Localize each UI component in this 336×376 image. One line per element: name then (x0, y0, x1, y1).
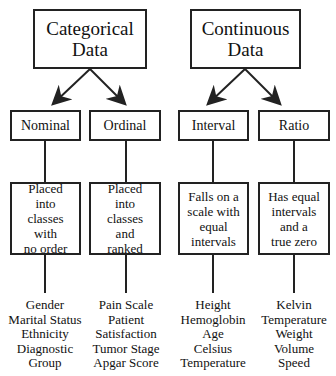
example-item: Celsius (169, 342, 257, 357)
example-item: Weight (250, 327, 336, 342)
desc-line: into (35, 196, 55, 211)
desc-line: ranked (107, 241, 142, 256)
example-item: Marital Status (0, 313, 90, 328)
example-item: Speed (250, 356, 336, 371)
example-item: Patient (82, 313, 170, 328)
desc-line: Placed (28, 181, 63, 196)
desc-line: intervals (191, 234, 236, 249)
desc-line: classes (107, 211, 143, 226)
example-item: Ethnicity (0, 327, 90, 342)
desc-line: no order (24, 241, 68, 256)
desc-line: and (116, 226, 135, 241)
categorical-data-box: Categorical Data (33, 9, 147, 69)
example-item: Volume (250, 342, 336, 357)
ordinal-examples: Pain Scale Patient Satisfaction Tumor St… (82, 298, 170, 371)
desc-line: classes (27, 211, 63, 226)
desc-line: and a (280, 219, 308, 234)
nominal-description-box: Placed into classes with no order (10, 182, 81, 255)
nominal-label: Nominal (21, 118, 70, 134)
example-item: Pain Scale (82, 298, 170, 313)
ratio-examples: Kelvin Temperature Weight Volume Speed (250, 298, 336, 371)
example-item: Kelvin (250, 298, 336, 313)
nominal-examples: Gender Marital Status Ethnicity Diagnost… (0, 298, 90, 371)
interval-label: Interval (192, 118, 236, 134)
example-item: Temperature (169, 356, 257, 371)
ordinal-description-box: Placed into classes and ranked (89, 182, 161, 255)
continuous-data-box: Continuous Data (190, 9, 301, 69)
example-item: Group (0, 356, 90, 371)
nominal-box: Nominal (10, 110, 81, 141)
ratio-box: Ratio (258, 110, 330, 141)
example-item: Hemoglobin (169, 313, 257, 328)
ratio-label: Ratio (279, 118, 309, 134)
example-item: Gender (0, 298, 90, 313)
categorical-title-line1: Categorical (46, 18, 134, 39)
interval-examples: Height Hemoglobin Age Celsius Temperatur… (169, 298, 257, 371)
continuous-title-line2: Data (228, 39, 264, 60)
desc-line: intervals (272, 204, 317, 219)
desc-line: true zero (271, 234, 317, 249)
desc-line: with (34, 226, 57, 241)
arrow-continuous-ratio (245, 69, 279, 103)
arrow-categorical-ordinal (90, 69, 124, 103)
desc-line: equal (199, 219, 227, 234)
ratio-description-box: Has equal intervals and a true zero (258, 182, 330, 255)
arrow-categorical-nominal (54, 69, 90, 103)
interval-description-box: Falls on a scale with equal intervals (178, 182, 249, 255)
example-item: Apgar Score (82, 356, 170, 371)
example-item: Age (169, 327, 257, 342)
categorical-title-line2: Data (72, 39, 108, 60)
desc-line: into (115, 196, 135, 211)
example-item: Diagnostic (0, 342, 90, 357)
arrow-continuous-interval (209, 69, 245, 103)
ordinal-label: Ordinal (104, 118, 147, 134)
desc-line: Falls on a (188, 189, 239, 204)
example-item: Satisfaction (82, 327, 170, 342)
example-item: Temperature (250, 313, 336, 328)
example-item: Height (169, 298, 257, 313)
ordinal-box: Ordinal (89, 110, 161, 141)
interval-box: Interval (178, 110, 249, 141)
desc-line: Has equal (268, 189, 320, 204)
desc-line: Placed (108, 181, 143, 196)
continuous-title-line1: Continuous (202, 18, 290, 39)
example-item: Tumor Stage (82, 342, 170, 357)
desc-line: scale with (187, 204, 239, 219)
